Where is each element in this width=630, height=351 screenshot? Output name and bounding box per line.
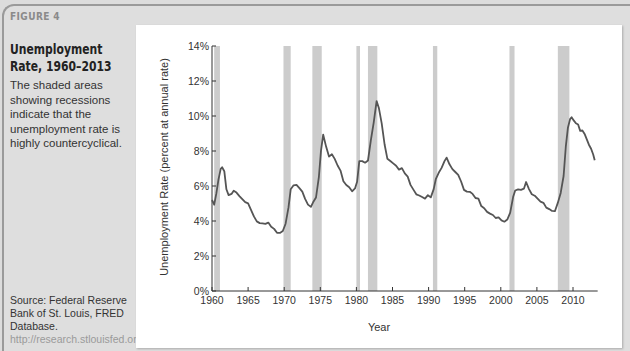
recession-bands <box>214 46 569 291</box>
y-axis-title: Unemployment Rate (percent at annual rat… <box>158 58 170 276</box>
figure-source: Source: Federal Reserve Bank of St. Loui… <box>10 294 138 346</box>
y-tick-label: 8% <box>194 145 209 157</box>
unemployment-line <box>212 101 595 233</box>
x-tick-label: 1995 <box>453 294 477 306</box>
x-tick-label: 1970 <box>273 294 297 306</box>
y-tick-label: 2% <box>194 250 209 262</box>
y-tick-label: 4% <box>194 215 209 227</box>
y-tick-label: 10% <box>188 110 209 122</box>
x-axis-title: Year <box>368 321 391 333</box>
x-axis-ticks: 1960196519701975198019851990199520002005… <box>200 287 585 306</box>
source-text: Source: Federal Reserve Bank of St. Loui… <box>10 294 127 332</box>
axes <box>212 46 598 291</box>
x-tick-label: 1980 <box>345 294 369 306</box>
figure-caption: The shaded areas showing recessions indi… <box>10 78 135 151</box>
x-tick-label: 2005 <box>525 294 549 306</box>
x-tick-label: 1975 <box>309 294 333 306</box>
chart-card: 1960196519701975198019851990199520002005… <box>136 25 622 348</box>
y-tick-label: 12% <box>188 75 209 87</box>
x-tick-label: 2000 <box>489 294 513 306</box>
x-tick-label: 1990 <box>417 294 441 306</box>
line-chart: 1960196519701975198019851990199520002005… <box>136 25 622 348</box>
figure-title: Unemployment Rate, 1960–2013 <box>10 41 130 75</box>
y-tick-label: 14% <box>188 40 209 52</box>
recession-band <box>509 46 514 291</box>
x-tick-label: 2010 <box>561 294 585 306</box>
recession-band <box>368 46 377 291</box>
recession-band <box>283 46 290 291</box>
x-tick-label: 1965 <box>236 294 260 306</box>
figure-label: FIGURE 4 <box>10 10 60 23</box>
recession-band <box>214 46 220 291</box>
y-tick-label: 6% <box>194 180 209 192</box>
recession-band <box>433 46 437 291</box>
y-tick-label: 0% <box>194 285 209 297</box>
x-tick-label: 1985 <box>381 294 405 306</box>
